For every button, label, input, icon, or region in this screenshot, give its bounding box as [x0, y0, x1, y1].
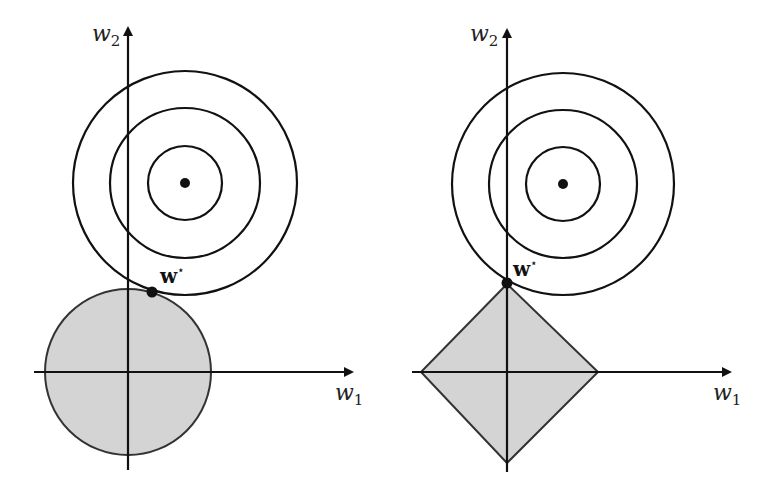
- loss-minimum-point: [180, 178, 190, 188]
- w1-axis-label: w1: [713, 380, 741, 409]
- regularization-figure: w⋆ w2 w1 w⋆ w2 w1: [0, 0, 771, 491]
- optimum-label: w⋆: [512, 256, 538, 281]
- loss-minimum-point: [558, 179, 568, 189]
- optimum-point: [502, 278, 513, 289]
- l1-constraint-diamond: [421, 284, 598, 463]
- right-panel-l1: w⋆ w2 w1: [412, 21, 741, 472]
- optimum-point: [147, 287, 158, 298]
- left-panel-l2: w⋆ w2 w1: [34, 21, 363, 470]
- w2-axis-label: w2: [92, 21, 120, 50]
- optimum-label: w⋆: [159, 263, 185, 288]
- w1-axis-label: w1: [335, 380, 363, 409]
- w2-axis-label: w2: [470, 21, 498, 50]
